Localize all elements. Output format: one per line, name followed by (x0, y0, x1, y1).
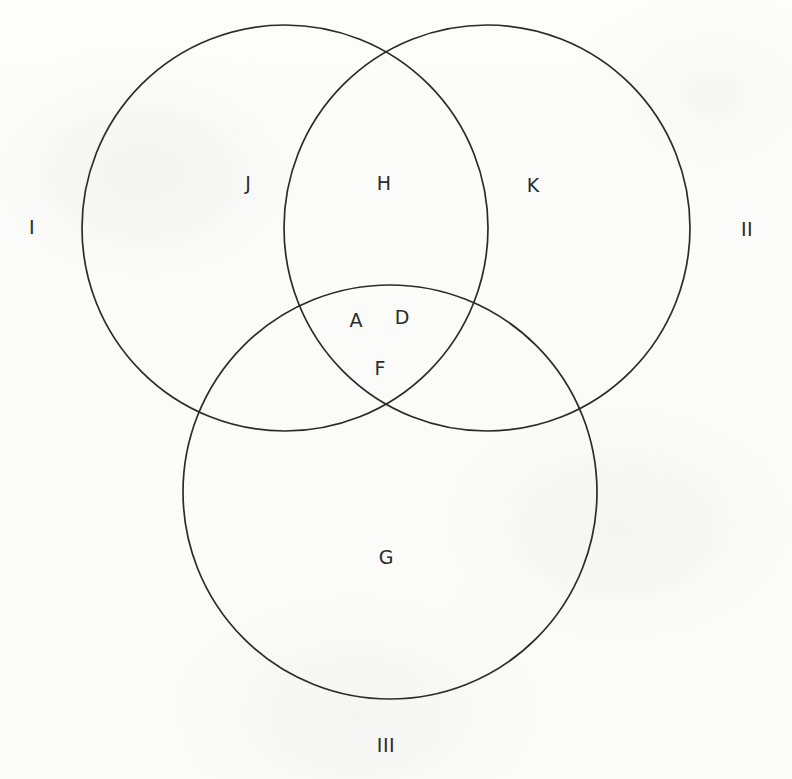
region-label-k: K (527, 176, 539, 195)
region-label-h: H (377, 174, 391, 193)
region-label-f: F (375, 359, 386, 378)
set-label-three: III (377, 736, 395, 755)
region-label-a: A (350, 311, 363, 330)
venn-diagram-canvas (0, 0, 792, 779)
set-circle-one[interactable] (82, 25, 488, 431)
set-circle-two[interactable] (284, 25, 690, 431)
region-label-g: G (379, 548, 394, 567)
region-label-d: D (395, 308, 410, 327)
venn-circles-group (82, 25, 690, 699)
venn-diagram-page: I II III J H K A D F G (0, 0, 792, 779)
set-label-two: II (741, 220, 753, 239)
set-label-one: I (29, 218, 35, 237)
region-label-j: J (245, 174, 251, 193)
set-circle-three[interactable] (183, 285, 597, 699)
